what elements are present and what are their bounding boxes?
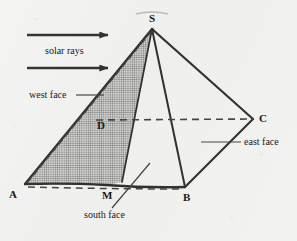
west-face-label: west face xyxy=(29,90,66,100)
vertex-label-M: M xyxy=(102,190,112,201)
edge-A-M-B-base xyxy=(25,184,185,188)
east-face-label: east face xyxy=(244,137,279,147)
south-face-label: south face xyxy=(84,210,125,220)
vertex-label-A: A xyxy=(9,189,17,200)
solar-rays-label: solar rays xyxy=(45,46,84,56)
pyramid-diagram-canvas xyxy=(0,0,297,241)
pyramid-diagram-figure: S A B C D M solar rays west face east fa… xyxy=(0,0,297,241)
edge-C-B xyxy=(185,119,253,187)
vertex-label-B: B xyxy=(183,192,190,203)
vertex-label-C: C xyxy=(259,113,267,124)
vertex-label-S: S xyxy=(149,13,155,24)
vertex-label-D: D xyxy=(97,120,105,131)
